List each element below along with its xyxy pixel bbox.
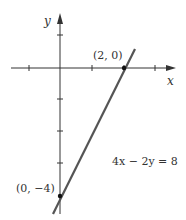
point-0-neg4 [58, 194, 62, 198]
x-axis-label: x [167, 74, 174, 88]
y-axis-label: y [44, 14, 51, 28]
y-axis-arrow-icon [57, 13, 63, 24]
equation-label: 4x − 2y = 8 [112, 155, 178, 168]
point-label-0-neg4: (0, −4) [16, 182, 55, 195]
equation-line [53, 49, 135, 214]
point-2-0 [122, 66, 126, 70]
point-label-2-0: (2, 0) [93, 49, 123, 62]
x-axis-arrow-icon [166, 65, 176, 71]
